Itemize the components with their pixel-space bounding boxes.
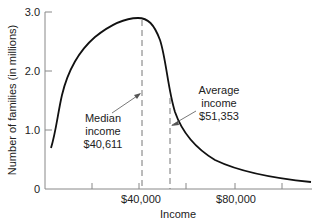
average-label-line2: income	[201, 97, 236, 109]
median-label-line2: income	[85, 125, 120, 137]
x-tick-label: $80,000	[216, 193, 256, 205]
x-axis-title: Income	[160, 208, 196, 220]
average-label-line1: Average	[199, 84, 240, 96]
distribution-curve	[51, 18, 311, 182]
y-tick-label: 2.0	[25, 65, 40, 77]
y-tick-label: 1.0	[25, 124, 40, 136]
average-arrowhead	[171, 121, 179, 126]
median-arrowhead	[134, 93, 141, 99]
average-label-line3: $51,353	[199, 110, 239, 122]
median-label-line3: $40,611	[84, 138, 123, 150]
median-label-line1: Median	[85, 112, 121, 124]
y-axis-title: Number of families (in millions)	[6, 25, 18, 175]
y-tick-label: 3.0	[25, 6, 40, 18]
income-distribution-chart: 0 1.0 2.0 3.0 $40,000 $80,000 Income Num…	[0, 0, 319, 224]
y-tick-label: 0	[34, 183, 40, 195]
x-tick-label: $40,000	[121, 193, 161, 205]
